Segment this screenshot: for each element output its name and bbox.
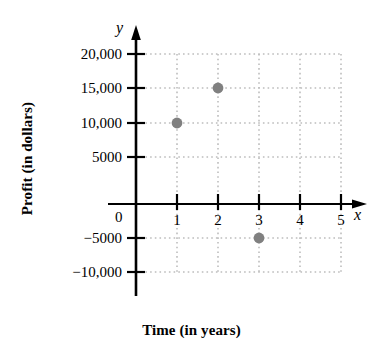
ytick-label-20000: 20,000: [6, 46, 122, 63]
xtick-label-4: 4: [296, 212, 304, 229]
xtick-label-3: 3: [255, 212, 263, 229]
x-axis-ticks: [177, 194, 341, 210]
xtick-label-5: 5: [337, 212, 345, 229]
data-point: [213, 83, 224, 94]
xtick-label-1: 1: [173, 212, 181, 229]
chart-figure: 20,000 15,000 10,000 5000 −5000 −10,000 …: [0, 0, 383, 355]
axes: [108, 25, 367, 296]
grid-lines: [136, 54, 341, 272]
y-axis-variable-label: y: [116, 19, 123, 37]
data-point: [172, 118, 183, 129]
x-axis-variable-label: x: [354, 206, 361, 224]
y-axis-arrowhead: [131, 25, 141, 40]
xtick-label-2: 2: [214, 212, 222, 229]
x-axis-title: Time (in years): [0, 322, 383, 339]
y-axis-title: Profit (in dollars): [19, 69, 36, 249]
origin-label: 0: [115, 209, 123, 226]
data-point: [254, 233, 265, 244]
ytick-label-neg10000: −10,000: [6, 264, 122, 281]
